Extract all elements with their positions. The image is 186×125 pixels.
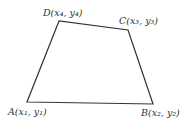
vertex-label-d: D(x₄, y₄)	[43, 8, 82, 18]
vertex-label-c: C(x₃, y₃)	[119, 16, 158, 26]
vertex-label-a: A(x₁, y₁)	[8, 107, 47, 117]
quadrilateral-shape	[27, 21, 153, 104]
vertex-label-b: B(x₂, y₂)	[141, 108, 180, 118]
